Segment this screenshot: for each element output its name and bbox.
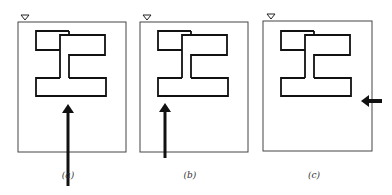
maze-shape (158, 31, 228, 96)
figure-canvas (0, 0, 392, 195)
maze-shape (36, 31, 106, 96)
panel-a (18, 15, 126, 186)
panel-frame (140, 22, 248, 152)
maze-shape (281, 31, 351, 96)
panel-c (263, 14, 382, 151)
caption-a: (a) (53, 170, 83, 180)
panel-frame (263, 21, 372, 151)
arrow-up-icon (159, 103, 171, 158)
panel-frame (18, 22, 126, 152)
panel-b (140, 15, 248, 158)
caption-c: (c) (299, 170, 329, 180)
triangle-marker-icon (143, 15, 151, 20)
triangle-marker-icon (21, 15, 29, 20)
caption-b: (b) (175, 170, 205, 180)
triangle-marker-icon (267, 14, 275, 19)
